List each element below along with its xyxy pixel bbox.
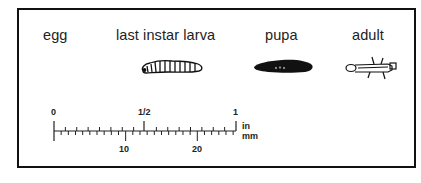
unit-inch: in bbox=[242, 121, 250, 131]
pupa-icon bbox=[254, 60, 313, 73]
ruler-label-half-in: 1/2 bbox=[138, 107, 151, 117]
ruler-label-20mm: 20 bbox=[192, 144, 202, 154]
unit-mm: mm bbox=[242, 131, 258, 141]
ruler-label-10mm: 10 bbox=[119, 144, 129, 154]
illustration-layer bbox=[0, 0, 421, 183]
scale-bar bbox=[54, 121, 236, 141]
ruler-label-0in: 0 bbox=[51, 107, 56, 117]
larva-icon bbox=[142, 61, 202, 73]
adult-icon bbox=[346, 57, 396, 79]
ruler-label-1in: 1 bbox=[233, 107, 238, 117]
